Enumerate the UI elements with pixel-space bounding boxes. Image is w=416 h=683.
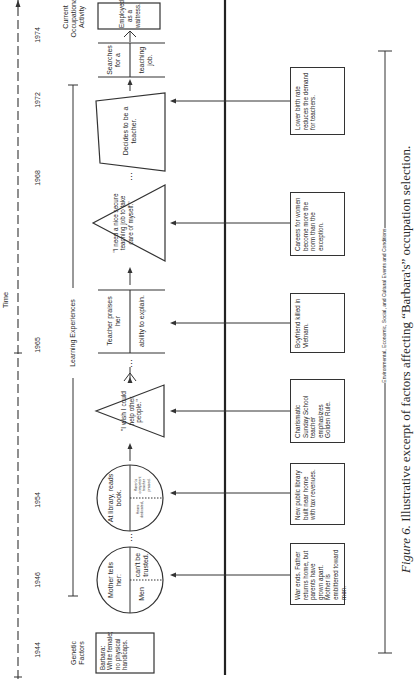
genetic-box: Barbara: White female; no physical handi… [96,627,160,673]
learning-experiences-label: Learning Experiences [69,288,77,378]
searches-bottom: teaching job. [138,44,154,76]
circle-library-title: At library, reads book. [107,473,123,523]
year-label: 1954 [34,485,41,515]
env-box-sunday-school: Charismatic Sunday School teacher emphas… [290,379,345,443]
env-box-birth-rate: Lower birth rate reduces the demand for … [290,67,345,135]
env-box-boyfriend-killed: Boyfriend killed in Vietnam. [290,293,345,353]
diagram-linework: ⋯ ⋯ ⋯ [0,0,416,683]
trapezoid-decides-teacher-text: Decides to be a teacher. [122,101,138,161]
env-box-war-ends: War ends. Father returns home, but paren… [290,543,345,605]
circle-mother-title: Mother tells her: [107,557,123,603]
time-axis-label: Time [2,285,10,315]
teacher-praises-bottom: ability to explain. [138,291,146,351]
svg-text:⋯: ⋯ [127,359,137,368]
current-activity-label: Current Occupational Activity [62,0,86,40]
searches-top: Searches for a [106,44,122,76]
year-label: 1965 [34,330,41,360]
caption-text: Illustrative excerpt of factors affectin… [398,146,413,525]
triangle-secure-job-text: "I need a nice secure teaching job to ta… [112,191,134,255]
circle-mother-right: can't be trusted. [134,551,150,579]
circle-library-right: Karen's competent teacher praised. [134,473,151,497]
year-label: 1968 [34,163,41,193]
time-axis-arrowhead [16,0,21,7]
figure-caption: Figure 6. Illustrative excerpt of factor… [398,146,414,573]
svg-text:⋯: ⋯ [127,533,137,542]
year-label: 1946 [34,565,41,595]
genetic-factors-label: Genetic Factors [70,633,86,673]
current-activity-box: Employed as a waitress. [118,4,142,28]
svg-text:⋯: ⋯ [127,172,137,181]
year-label: 1974 [34,20,41,50]
year-label: 1972 [34,85,41,115]
circle-library-left: Hears dedicated, [136,499,144,520]
environmental-label: Environmental, Economic, Social, and Cul… [381,228,388,383]
year-label: 1944 [34,635,41,665]
env-box-careers-women: Careers for women become more the norm t… [290,192,345,256]
env-box-public-library: New public library built near home with … [290,463,345,525]
teacher-praises-top: Teacher praises her [106,291,122,351]
circle-mother-left: Men [138,580,146,608]
triangle-wish-help-text: "I wish I could help other people." [120,391,143,431]
caption-prefix: Figure 6. [398,525,413,573]
diagram-canvas: ⋯ ⋯ ⋯ [0,0,416,683]
influence-arrows [174,101,290,575]
